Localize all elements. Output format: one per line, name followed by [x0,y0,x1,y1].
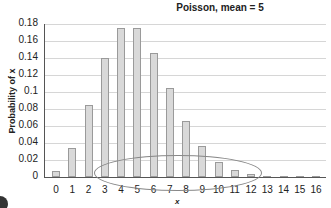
bar [133,28,141,177]
x-tick-label: 16 [306,184,326,195]
y-tick-label: 0.06 [4,119,38,130]
y-axis [44,24,45,178]
bar [101,58,109,177]
x-axis-label: x [175,197,179,206]
y-tick-label: 0.14 [4,51,38,62]
gridline [44,75,326,76]
y-tick-label: 0.02 [4,153,38,164]
bar [68,148,76,177]
y-tick-label: 0.04 [4,136,38,147]
gridline [44,92,326,93]
chart-title: Poisson, mean = 5 [140,2,300,13]
gridline [44,24,326,25]
y-tick-label: 0.1 [4,85,38,96]
gridline [44,41,326,42]
y-tick-label: 0.16 [4,34,38,45]
y-tick-label: 0.08 [4,102,38,113]
y-tick-label: 0.18 [4,17,38,28]
y-tick-label: 0 [4,170,38,181]
bar [117,28,125,177]
corner-dot [0,196,8,208]
y-tick-label: 0.12 [4,68,38,79]
gridline [44,58,326,59]
bar [85,105,93,177]
highlight-ellipse [94,155,262,191]
